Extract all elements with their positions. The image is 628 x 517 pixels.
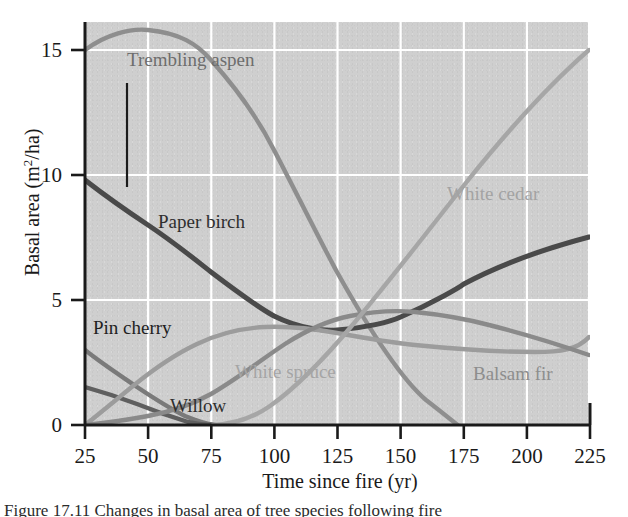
y-axis-title-superscript: 2	[20, 160, 35, 167]
xtick-label-200: 200	[492, 446, 562, 467]
xtick-label-100: 100	[239, 446, 309, 467]
figure-chart-basal-area: Trembling aspen Paper birch White cedar …	[0, 0, 628, 517]
x-axis-title: Time since fire (yr)	[175, 470, 505, 493]
xtick-label-50: 50	[113, 446, 183, 467]
ytick-label-15: 15	[22, 40, 62, 61]
axis-spines-and-ticks	[0, 0, 628, 517]
xtick-label-75: 75	[176, 446, 246, 467]
xtick-label-25: 25	[50, 446, 120, 467]
xtick-label-225: 225	[555, 446, 625, 467]
xtick-label-150: 150	[366, 446, 436, 467]
y-axis-title-suffix: /ha)	[21, 129, 43, 160]
xtick-label-125: 125	[303, 446, 373, 467]
y-axis-title: Basal area (m2/ha)	[20, 72, 45, 332]
y-axis-title-prefix: Basal area (m	[21, 166, 43, 276]
xtick-label-175: 175	[429, 446, 499, 467]
ytick-label-0: 0	[22, 415, 62, 436]
figure-caption: Figure 17.11 Changes in basal area of tr…	[4, 501, 604, 517]
